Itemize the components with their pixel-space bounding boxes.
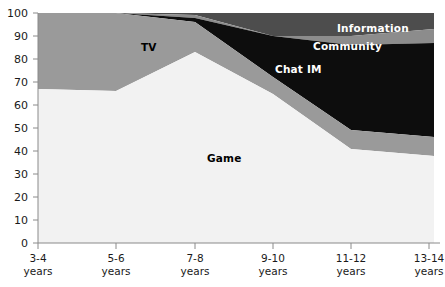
x-tick-value: 9-10 <box>242 252 304 265</box>
y-tick-80: 80 <box>0 54 28 65</box>
y-axis-ticks <box>33 13 38 243</box>
y-tick-10: 10 <box>0 215 28 226</box>
x-tick-value: 5-6 <box>85 252 147 265</box>
x-tick-9-10-years: 9-10 years <box>242 252 304 277</box>
series-label-community: Community <box>313 40 382 52</box>
x-tick-unit: years <box>398 265 445 278</box>
y-tick-40: 40 <box>0 146 28 157</box>
x-tick-unit: years <box>320 265 382 278</box>
x-tick-value: 7-8 <box>164 252 226 265</box>
x-tick-unit: years <box>85 265 147 278</box>
series-label-tv: TV <box>141 41 157 53</box>
y-tick-30: 30 <box>0 169 28 180</box>
x-tick-value: 11-12 <box>320 252 382 265</box>
series-label-game: Game <box>207 152 242 164</box>
x-tick-13-14-years: 13-14 years <box>398 252 445 277</box>
y-tick-100: 100 <box>0 8 28 19</box>
stacked-area-chart: 100 90 80 70 60 50 40 30 20 10 0 3-4 yea… <box>0 0 445 287</box>
x-tick-unit: years <box>242 265 304 278</box>
x-tick-value: 3-4 <box>7 252 69 265</box>
y-tick-50: 50 <box>0 123 28 134</box>
x-axis-ticks <box>38 243 429 249</box>
x-tick-value: 13-14 <box>398 252 445 265</box>
series-label-information: Information <box>337 22 409 34</box>
series-label-chat-im: Chat IM <box>275 63 322 75</box>
x-tick-unit: years <box>164 265 226 278</box>
y-tick-20: 20 <box>0 192 28 203</box>
x-tick-unit: years <box>7 265 69 278</box>
y-tick-0: 0 <box>0 238 28 249</box>
y-tick-70: 70 <box>0 77 28 88</box>
x-tick-5-6-years: 5-6 years <box>85 252 147 277</box>
x-tick-3-4-years: 3-4 years <box>7 252 69 277</box>
x-tick-7-8-years: 7-8 years <box>164 252 226 277</box>
y-tick-60: 60 <box>0 100 28 111</box>
x-tick-11-12-years: 11-12 years <box>320 252 382 277</box>
y-tick-90: 90 <box>0 31 28 42</box>
